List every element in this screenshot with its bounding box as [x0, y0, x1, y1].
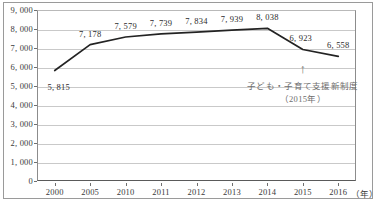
x-axis-tick [126, 183, 127, 186]
x-axis-tick-label: 2010 [117, 187, 135, 197]
data-point-label: 7, 939 [221, 14, 243, 24]
data-point-label: 7, 834 [185, 16, 207, 26]
data-point-label: 7, 739 [150, 18, 172, 28]
data-point-label: 8, 038 [256, 12, 278, 22]
x-axis-tick [338, 183, 339, 186]
x-axis-tick-label: 2016 [329, 187, 347, 197]
y-axis-tick [34, 86, 37, 87]
x-axis-tick [232, 183, 233, 186]
data-point-label: 6, 558 [327, 40, 349, 50]
x-axis-tick [303, 183, 304, 186]
y-axis-tick [34, 105, 37, 106]
x-axis-tick-label: 2013 [223, 187, 241, 197]
y-axis-tick [34, 10, 37, 11]
x-axis-tick [90, 183, 91, 186]
x-axis-unit-label: （年） [351, 187, 376, 199]
annotation-arrow-icon: ↑ [300, 62, 307, 75]
x-axis-tick-label: 2014 [258, 187, 276, 197]
x-axis: 200020052010201120122013201420152016（年） [0, 183, 376, 202]
annotation-text-secondary: （2015年） [280, 92, 326, 104]
x-axis-tick-label: 2012 [188, 187, 206, 197]
x-axis-tick [161, 183, 162, 186]
y-axis-tick [34, 181, 37, 182]
x-axis-tick [267, 183, 268, 186]
x-axis-tick [197, 183, 198, 186]
x-axis-tick [55, 183, 56, 186]
x-axis-tick-label: 2015 [294, 187, 312, 197]
y-axis-tick [34, 48, 37, 49]
line-chart: 9, 0008, 0007, 0006, 0005, 0004, 0003, 0… [0, 0, 376, 202]
data-point-label: 5, 815 [47, 82, 69, 92]
y-axis-tick [34, 143, 37, 144]
x-axis-tick-label: 2000 [46, 187, 64, 197]
annotation-text-primary: 子ども・子育て支援新制度 [247, 79, 359, 91]
y-axis-tick [34, 67, 37, 68]
data-point-label: 6, 923 [290, 33, 312, 43]
x-axis-tick-label: 2011 [152, 187, 170, 197]
x-axis-tick-label: 2005 [81, 187, 99, 197]
y-axis-tick [34, 124, 37, 125]
y-axis-tick [34, 162, 37, 163]
y-axis-tick [34, 29, 37, 30]
data-point-label: 7, 579 [114, 21, 136, 31]
data-point-label: 7, 178 [79, 29, 101, 39]
